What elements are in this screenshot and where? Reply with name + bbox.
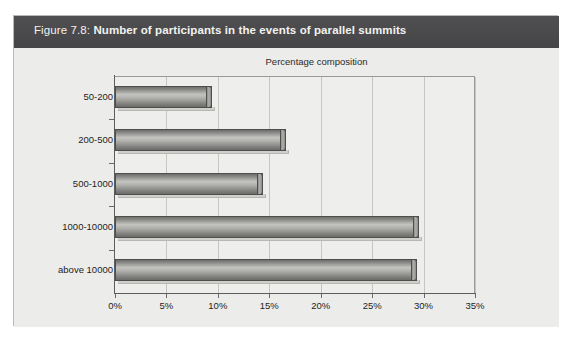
- x-axis-label: 20%: [311, 300, 330, 311]
- figure-frame: Figure 7.8: Number of participants in th…: [13, 15, 558, 326]
- bar: [115, 216, 419, 238]
- bar-body: [115, 86, 212, 108]
- x-axis-tick: [475, 294, 476, 298]
- x-axis-label: 30%: [414, 300, 433, 311]
- bar: [115, 86, 212, 108]
- x-axis-label: 0%: [108, 300, 122, 311]
- x-axis-tick: [166, 294, 167, 298]
- x-axis-label: 15%: [260, 300, 279, 311]
- gridline: [475, 77, 476, 293]
- y-axis-label: 1000-10000: [17, 221, 113, 232]
- x-axis-label: 25%: [363, 300, 382, 311]
- bar: [115, 129, 286, 151]
- y-axis-label: 500-1000: [17, 178, 113, 189]
- y-axis-label: above 10000: [17, 264, 113, 275]
- figure-caption: Figure 7.8: Number of participants in th…: [34, 24, 406, 36]
- x-axis-tick: [218, 294, 219, 298]
- y-axis-label: 200-500: [17, 134, 113, 145]
- x-axis-line: [115, 293, 476, 294]
- x-axis-label: 10%: [208, 300, 227, 311]
- bar-body: [115, 216, 419, 238]
- bar: [115, 259, 417, 281]
- bar-body: [115, 129, 286, 151]
- figure-number: Figure 7.8:: [34, 24, 90, 36]
- chart-panel: Percentage composition 50-200200-500500-…: [14, 48, 559, 327]
- x-axis-label: 35%: [465, 300, 484, 311]
- y-axis-label: 50-200: [17, 91, 113, 102]
- x-axis-label: 5%: [160, 300, 174, 311]
- x-axis-tick: [372, 294, 373, 298]
- figure-caption-bar: Figure 7.8: Number of participants in th…: [14, 16, 559, 48]
- x-axis-tick: [115, 294, 116, 298]
- gridline: [424, 77, 425, 293]
- bar-cap: [206, 86, 212, 108]
- figure-title: Number of participants in the events of …: [93, 24, 406, 36]
- bar-cap: [280, 129, 286, 151]
- bar-cap: [257, 173, 263, 195]
- x-axis-tick: [321, 294, 322, 298]
- bar-cap: [411, 259, 417, 281]
- bar-body: [115, 259, 417, 281]
- bar-cap: [413, 216, 419, 238]
- y-axis-labels: 50-200200-500500-10001000-10000above 100…: [14, 48, 113, 327]
- bar: [115, 173, 263, 195]
- bar-body: [115, 173, 263, 195]
- x-axis-tick: [269, 294, 270, 298]
- x-axis-tick: [424, 294, 425, 298]
